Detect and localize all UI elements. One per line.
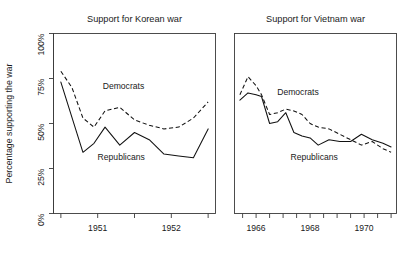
- panel-title-vietnam: Support for Vietnam war: [266, 14, 365, 24]
- y-axis-title: Percentage supporting the war: [4, 64, 14, 184]
- plot-frame-vietnam: [235, 34, 397, 214]
- y-tick-label-50: 50%: [36, 123, 46, 141]
- y-tick-label-0: 0%: [36, 213, 46, 226]
- x-tick-label-vietnam-1968: 1968: [301, 223, 320, 233]
- y-tick-label-25: 25%: [36, 168, 46, 186]
- x-tick-label-vietnam-1970: 1970: [355, 223, 374, 233]
- series-line-korean-republicans: [61, 82, 208, 158]
- series-line-korean-democrats: [61, 71, 208, 129]
- plot-frame-korean: [54, 34, 216, 214]
- chart-figure: Support for Korean war19511952DemocratsR…: [0, 0, 418, 256]
- series-line-vietnam-republicans: [240, 93, 391, 147]
- x-tick-label-korean-1952: 1952: [162, 223, 181, 233]
- x-tick-label-vietnam-1966: 1966: [247, 223, 266, 233]
- series-label-korean-republicans: Republicans: [98, 152, 145, 162]
- series-label-korean-democrats: Democrats: [103, 81, 145, 91]
- figure-canvas: Support for Korean war19511952DemocratsR…: [0, 0, 418, 256]
- panel-title-korean: Support for Korean war: [87, 14, 182, 24]
- series-label-vietnam-republicans: Republicans: [291, 152, 338, 162]
- series-label-vietnam-democrats: Democrats: [277, 87, 319, 97]
- x-tick-label-korean-1951: 1951: [88, 223, 107, 233]
- y-tick-label-100: 100%: [36, 33, 46, 55]
- y-tick-label-75: 75%: [36, 78, 46, 96]
